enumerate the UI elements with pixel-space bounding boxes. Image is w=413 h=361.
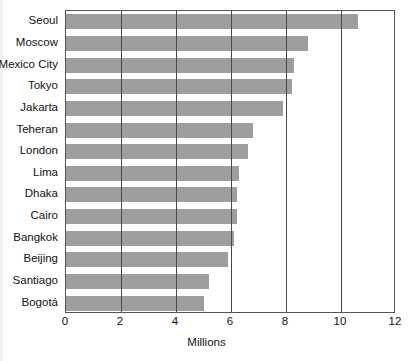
x-tick-label: 12 — [389, 315, 402, 327]
bar-fill — [66, 296, 204, 311]
bar — [66, 296, 204, 311]
x-tick-label: 4 — [172, 315, 178, 327]
category-label: Bogotá — [22, 295, 58, 310]
category-label: Dhaka — [25, 186, 58, 201]
bar-fill — [66, 252, 228, 267]
value-axis-ticks: 024681012 — [0, 315, 413, 333]
bar — [66, 14, 358, 29]
bar — [66, 123, 253, 138]
x-axis-title: Millions — [0, 336, 413, 348]
category-label: Tokyo — [28, 78, 58, 93]
bar — [66, 36, 308, 51]
category-label: London — [20, 143, 58, 158]
bar-fill — [66, 36, 308, 51]
bar — [66, 79, 292, 94]
category-axis-labels: SeoulMoscowMexico CityTokyoJakartaTehera… — [0, 10, 61, 313]
x-tick-label: 10 — [334, 315, 347, 327]
bar — [66, 144, 248, 159]
gridline-x-8 — [286, 11, 287, 312]
category-label: Teheran — [16, 122, 58, 137]
bars-layer — [66, 11, 394, 312]
category-label: Beijing — [23, 251, 58, 266]
bar — [66, 274, 209, 289]
plot-area — [65, 10, 395, 313]
category-label: Mexico City — [0, 57, 58, 72]
bar — [66, 187, 237, 202]
bar-fill — [66, 231, 234, 246]
bar-fill — [66, 79, 292, 94]
gridline-x-6 — [231, 11, 232, 312]
bar — [66, 252, 228, 267]
bar-fill — [66, 101, 283, 116]
x-tick-label: 8 — [282, 315, 288, 327]
bar-fill — [66, 144, 248, 159]
bar-fill — [66, 166, 239, 181]
bar-fill — [66, 58, 294, 73]
x-tick-label: 2 — [117, 315, 123, 327]
x-tick-label: 0 — [62, 315, 68, 327]
bar-fill — [66, 274, 209, 289]
bar — [66, 209, 237, 224]
bar-fill — [66, 209, 237, 224]
bar-fill — [66, 187, 237, 202]
bar-chart: SeoulMoscowMexico CityTokyoJakartaTehera… — [0, 0, 413, 361]
bar — [66, 101, 283, 116]
x-tick-label: 6 — [227, 315, 233, 327]
category-label: Cairo — [31, 208, 58, 223]
bar — [66, 166, 239, 181]
gridline-x-2 — [121, 11, 122, 312]
gridline-x-10 — [341, 11, 342, 312]
bar-fill — [66, 14, 358, 29]
bar — [66, 231, 234, 246]
category-label: Jakarta — [20, 100, 58, 115]
bar — [66, 58, 294, 73]
category-label: Lima — [33, 165, 58, 180]
category-label: Seoul — [29, 13, 58, 28]
bar-fill — [66, 123, 253, 138]
category-label: Moscow — [16, 35, 58, 50]
gridline-x-4 — [176, 11, 177, 312]
category-label: Santiago — [13, 273, 58, 288]
category-label: Bangkok — [13, 230, 58, 245]
